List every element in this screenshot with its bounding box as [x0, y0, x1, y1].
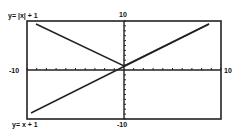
x-min-label: -10: [9, 67, 19, 74]
x-max-label: 10: [224, 67, 232, 74]
line-abs-x-plus-1: [36, 24, 209, 66]
equation-label-abs: y= |x| + 1: [8, 12, 38, 19]
equation-label-linear: y= x + 1: [12, 121, 38, 128]
y-max-label: 10: [119, 11, 127, 18]
y-min-label: -10: [117, 121, 127, 128]
graph-plot: [0, 0, 240, 130]
